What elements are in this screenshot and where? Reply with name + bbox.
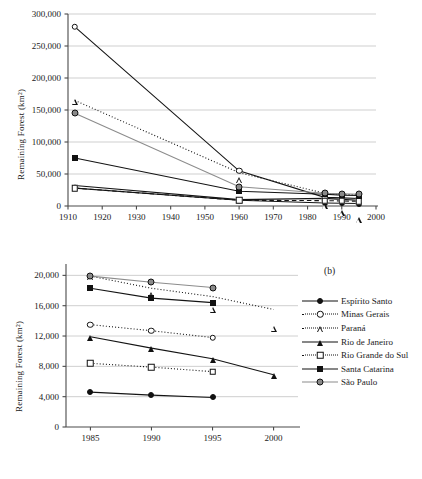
y-tick-label: 4,000 bbox=[0, 392, 59, 402]
data-point-circle-gray bbox=[209, 284, 216, 291]
legend-key bbox=[302, 335, 338, 349]
legend-item-4[interactable]: Rio Grande do Sul bbox=[302, 348, 408, 362]
data-point-tri-open bbox=[72, 99, 78, 105]
data-point-circle-open bbox=[148, 327, 155, 334]
y-tick-label: 12,000 bbox=[0, 331, 59, 341]
data-point-circle-gray bbox=[71, 110, 78, 117]
data-point-circle-filled bbox=[87, 389, 93, 395]
y-tick-label: 0 bbox=[0, 201, 61, 211]
legend-label: Paraná bbox=[338, 323, 366, 333]
data-point-circle-open bbox=[87, 321, 94, 328]
x-tick-label: 1950 bbox=[196, 212, 214, 222]
series-line-6 bbox=[75, 113, 359, 194]
data-point-square-open bbox=[209, 368, 216, 375]
data-point-circle-filled bbox=[148, 392, 154, 398]
x-tick-label: 1940 bbox=[162, 212, 180, 222]
legend-marker-circle-gray bbox=[317, 379, 324, 386]
y-tick-label: 16,000 bbox=[0, 301, 59, 311]
x-tick-label: 2000 bbox=[265, 433, 283, 443]
data-point-square-open bbox=[72, 185, 79, 192]
legend-item-1[interactable]: Minas Gerais bbox=[302, 308, 408, 322]
legend-label: Santa Catarina bbox=[338, 364, 394, 374]
legend-label: São Paulo bbox=[338, 377, 377, 387]
legend-key bbox=[302, 362, 338, 376]
y-tick-label: 0 bbox=[0, 422, 59, 432]
series-line-3 bbox=[90, 337, 273, 375]
data-point-tri-open bbox=[236, 177, 242, 183]
y-tick-label: 8,000 bbox=[0, 361, 59, 371]
legend-item-5[interactable]: Santa Catarina bbox=[302, 362, 408, 376]
x-tick-label: 1970 bbox=[264, 212, 282, 222]
legend-item-0[interactable]: Espírito Santo bbox=[302, 294, 408, 308]
data-point-square-open bbox=[321, 197, 328, 204]
legend-item-6[interactable]: São Paulo bbox=[302, 376, 408, 390]
legend-marker-circle-filled bbox=[317, 298, 323, 304]
legend-label: Espírito Santo bbox=[338, 296, 392, 306]
x-tick-label: 1995 bbox=[204, 433, 222, 443]
x-tick-label: 1930 bbox=[127, 212, 145, 222]
legend-marker-tri-open bbox=[317, 326, 323, 332]
legend-key bbox=[302, 348, 338, 362]
x-tick-label: 1990 bbox=[142, 433, 160, 443]
legend-item-3[interactable]: Rio de Janeiro bbox=[302, 335, 408, 349]
chart-panel-b: (b) Remaining Forest (km²) 04,0008,00012… bbox=[0, 250, 422, 479]
data-point-square-open bbox=[339, 198, 346, 205]
legend-key bbox=[302, 294, 338, 308]
data-point-square-open bbox=[148, 364, 155, 371]
data-point-tri-filled bbox=[210, 357, 216, 363]
y-tick-label: 250,000 bbox=[0, 41, 61, 51]
legend-marker-circle-open bbox=[317, 311, 324, 318]
legend-label: Minas Gerais bbox=[338, 309, 389, 319]
panel-b-lines bbox=[66, 264, 298, 427]
data-point-square-filled bbox=[87, 285, 93, 291]
data-point-tri-open bbox=[271, 326, 277, 332]
panel-a-lines bbox=[68, 14, 376, 206]
y-tick-label: 150,000 bbox=[0, 105, 61, 115]
data-point-tri-filled bbox=[148, 346, 154, 352]
x-tick-label: 2000 bbox=[367, 212, 385, 222]
data-point-tri-open bbox=[356, 217, 362, 223]
data-point-square-open bbox=[236, 197, 243, 204]
data-point-circle-gray bbox=[321, 190, 328, 197]
legend-marker-tri-filled bbox=[317, 340, 323, 346]
x-tick-label: 1985 bbox=[81, 433, 99, 443]
legend-item-2[interactable]: Paraná bbox=[302, 321, 408, 335]
series-line-1 bbox=[75, 27, 359, 199]
data-point-circle-open bbox=[209, 334, 216, 341]
chart-legend: Espírito SantoMinas GeraisParanáRio de J… bbox=[302, 294, 408, 389]
x-tick-label: 1910 bbox=[59, 212, 77, 222]
legend-marker-square-filled bbox=[317, 366, 323, 372]
data-point-tri-open bbox=[322, 203, 328, 209]
data-point-circle-gray bbox=[236, 183, 243, 190]
chart-panel-a: Remaining Forest (km²) 050,000100,000150… bbox=[0, 0, 422, 245]
data-point-circle-gray bbox=[338, 190, 345, 197]
legend-key bbox=[302, 308, 338, 322]
figure-container: Remaining Forest (km²) 050,000100,000150… bbox=[0, 0, 422, 479]
data-point-circle-gray bbox=[355, 191, 362, 198]
data-point-tri-filled bbox=[87, 335, 93, 341]
y-tick-label: 200,000 bbox=[0, 73, 61, 83]
series-line-0 bbox=[75, 188, 359, 203]
panel-b-letter: (b) bbox=[324, 266, 335, 276]
y-tick-label: 300,000 bbox=[0, 9, 61, 19]
data-point-square-filled bbox=[148, 295, 154, 301]
x-tick-label: 1920 bbox=[93, 212, 111, 222]
data-point-circle-open bbox=[236, 168, 243, 175]
data-point-square-filled bbox=[72, 155, 78, 161]
data-point-circle-filled bbox=[210, 394, 216, 400]
series-line-2 bbox=[75, 100, 359, 195]
x-tick-label: 1980 bbox=[299, 212, 317, 222]
y-tick-label: 100,000 bbox=[0, 137, 61, 147]
legend-marker-square-open bbox=[317, 352, 324, 359]
data-point-tri-filled bbox=[271, 373, 277, 379]
legend-key bbox=[302, 376, 338, 390]
data-point-circle-open bbox=[72, 24, 79, 31]
data-point-square-filled bbox=[210, 300, 216, 306]
data-point-tri-open bbox=[210, 307, 216, 313]
legend-key bbox=[302, 321, 338, 335]
panel-b-plot-area bbox=[66, 264, 298, 427]
legend-label: Rio Grande do Sul bbox=[338, 350, 408, 360]
y-tick-label: 50,000 bbox=[0, 169, 61, 179]
panel-a-plot-area bbox=[68, 14, 376, 206]
y-tick-label: 20,000 bbox=[0, 270, 59, 280]
